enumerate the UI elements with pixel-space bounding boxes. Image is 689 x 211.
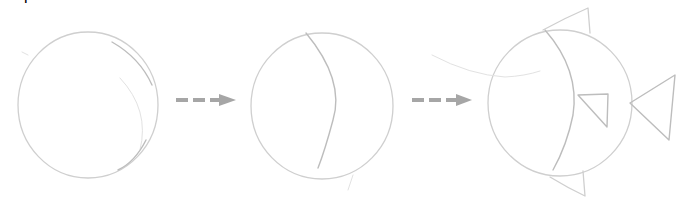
step-1-label: Step 1: Draw a circle — [0, 0, 148, 3]
step-2-circle-with-face-curve — [251, 33, 393, 190]
fish-drawing-steps-diagram: How to draw a fish - step by step Step 1… — [0, 0, 689, 211]
step-1-circle-sketch — [18, 32, 158, 178]
side-fin — [578, 94, 608, 127]
tail-fin — [630, 75, 675, 140]
step-3-completed-fish-sketch — [432, 8, 675, 196]
bottom-fin — [550, 171, 585, 196]
top-fin — [543, 8, 590, 33]
mouth-line — [432, 55, 540, 77]
arrow-step2-to-step3 — [412, 94, 472, 106]
arrow-step1-to-step2 — [176, 94, 236, 106]
face-curve — [545, 30, 574, 170]
